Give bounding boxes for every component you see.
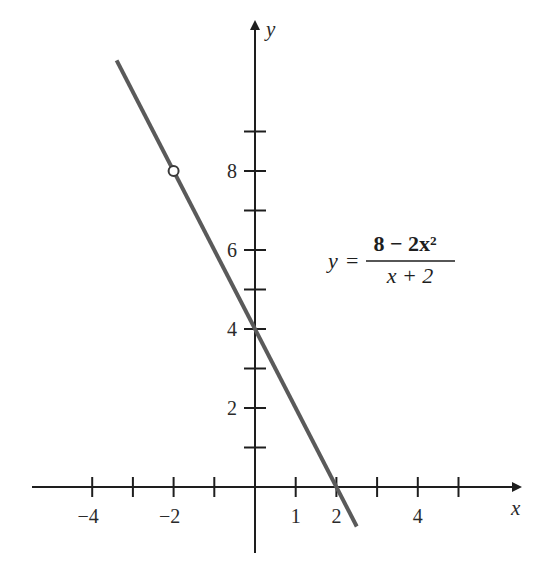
x-tick-label: 4 [413,505,423,527]
equation-equals: = [346,248,358,273]
function-graph: −4−2124 2468 x y y = 8 − 2x² x + 2 [0,0,534,572]
y-axis-label: y [264,17,276,41]
x-axis-label: x [510,496,521,520]
open-points [169,166,179,176]
equation-lhs: y [326,248,338,273]
equation-numerator: 8 − 2x² [373,231,437,256]
x-axis-tick-labels: −4−2124 [78,505,423,527]
equation-label: y = 8 − 2x² x + 2 [326,231,455,288]
equation-denominator: x + 2 [386,263,434,288]
y-tick-label: 2 [227,397,237,419]
y-tick-label: 6 [227,239,237,261]
x-tick-label: −4 [78,505,99,527]
open-point-hole [169,166,179,176]
y-tick-label: 8 [227,160,237,182]
x-tick-label: 1 [291,505,301,527]
y-tick-label: 4 [227,318,237,340]
function-line [117,60,357,526]
x-tick-label: −2 [159,505,180,527]
x-tick-label: 2 [331,505,341,527]
